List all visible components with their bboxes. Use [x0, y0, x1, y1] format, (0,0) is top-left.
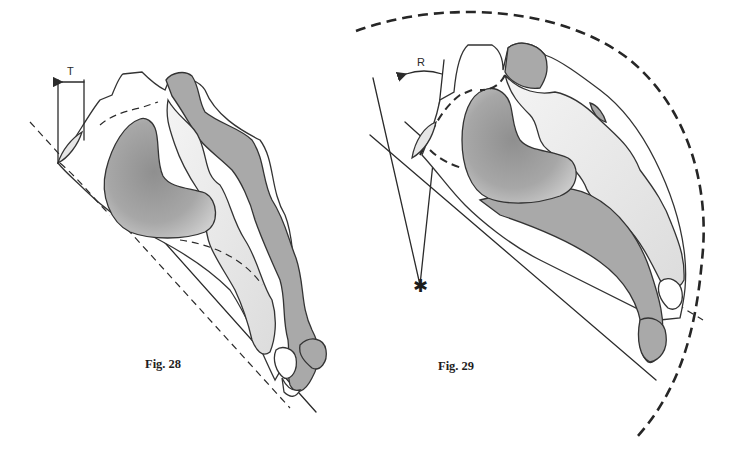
- rotation-arrow-icon: [406, 71, 442, 74]
- figure-canvas: T ✱: [0, 0, 730, 455]
- figure-29-caption: Fig. 29: [438, 359, 474, 374]
- rotation-label: R: [417, 56, 425, 68]
- radius-line: [373, 78, 420, 285]
- translation-label: T: [67, 65, 74, 77]
- figure-29-drawing: ✱ R: [356, 12, 704, 438]
- small-bone-dark: [638, 318, 666, 362]
- figure-28-caption: Fig. 28: [145, 357, 181, 372]
- rotation-center-marker: ✱: [413, 275, 428, 296]
